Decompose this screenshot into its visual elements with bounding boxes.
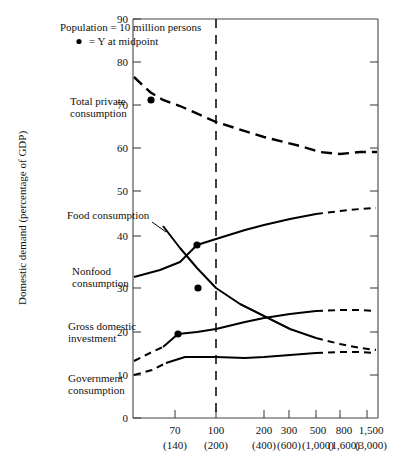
midpoint-dot-gross-domestic-investment	[174, 330, 181, 337]
ytick-label-40: 40	[117, 230, 129, 242]
curve-government-consumption	[166, 353, 316, 363]
xtick-label-300: 300	[281, 424, 298, 436]
xsub-label-140: (140)	[163, 439, 187, 452]
chart-svg: 90 80 70 60 50 40 30 20 10 0 Domestic de…	[0, 0, 406, 457]
xsub-label-600: (600)	[277, 439, 301, 452]
midpoint-dot-food-consumption	[194, 284, 201, 291]
midpoint-dot-nonfood-consumption	[193, 241, 200, 248]
series-nonfood-consumption	[134, 208, 376, 277]
series-government-consumption	[134, 352, 376, 375]
curve-food-consumption	[163, 226, 316, 338]
curve-investment-left-projected	[134, 347, 163, 361]
series-label-nonfood-line1: Nonfood	[72, 265, 112, 277]
series-label-total-private-line1: Total private	[70, 95, 126, 107]
xtick-label-200: 200	[256, 424, 273, 436]
curve-investment-projected	[316, 310, 376, 311]
xtick-label-1500: 1,500	[359, 424, 384, 436]
note-midpoint: = Y at midpoint	[89, 35, 158, 47]
curve-total-private-consumption	[134, 77, 377, 154]
curve-government-consumption-projected	[316, 352, 376, 353]
curve-government-left-projected	[134, 363, 166, 375]
x-axis-tick-labels: 70 100 200 300 500 800 1,500 (140) (200)…	[163, 424, 387, 452]
y-axis-title: Domestic demand (percentage of GDP)	[16, 131, 29, 305]
series-total-private-consumption	[134, 77, 377, 154]
curve-food-consumption-projected	[316, 338, 376, 350]
ytick-label-60: 60	[117, 142, 129, 154]
xsub-label-400: (400)	[252, 439, 276, 452]
midpoint-dot-total-private-consumption	[147, 96, 154, 103]
xsub-label-200: (200)	[204, 439, 228, 452]
ytick-label-50: 50	[117, 185, 129, 197]
xtick-label-70: 70	[170, 424, 182, 436]
xtick-label-800: 800	[336, 424, 353, 436]
x-axis-ticks	[175, 410, 367, 418]
series-gross-domestic-investment	[134, 310, 376, 361]
series-label-total-private-line2: consumption	[70, 107, 127, 119]
midpoint-legend-dot-icon	[76, 39, 81, 44]
series-label-investment-line1: Gross domestic	[68, 320, 136, 332]
series-label-food: Food consumption	[67, 209, 150, 221]
ytick-label-80: 80	[117, 56, 129, 68]
ytick-label-0: 0	[123, 412, 129, 424]
series-label-investment-line2: investment	[68, 332, 116, 344]
series-label-government-line1: Government	[68, 372, 123, 384]
series-label-government-line2: consumption	[68, 384, 125, 396]
xtick-label-100: 100	[208, 424, 225, 436]
note-population: Population = 10 million persons	[60, 21, 201, 33]
curve-nonfood-consumption	[134, 214, 316, 277]
xsub-label-3000: (3,000)	[355, 439, 387, 452]
chart-container: 90 80 70 60 50 40 30 20 10 0 Domestic de…	[0, 0, 406, 457]
series-label-nonfood-line2: consumption	[72, 277, 129, 289]
curve-nonfood-consumption-projected	[316, 208, 376, 214]
xtick-label-500: 500	[310, 424, 327, 436]
